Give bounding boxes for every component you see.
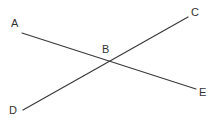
diagram-canvas: A B C D E [0, 0, 218, 120]
point-label-e: E [199, 86, 206, 98]
point-label-a: A [11, 17, 19, 29]
point-label-b: B [102, 43, 109, 55]
point-label-c: C [191, 6, 199, 18]
point-label-d: D [9, 104, 17, 116]
line-d-to-c [23, 17, 188, 110]
